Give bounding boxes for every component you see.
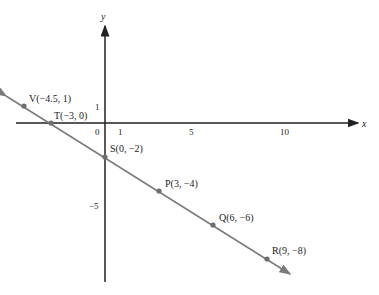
label-V: V(−4.5, 1)	[29, 93, 71, 105]
x-tick-1: 1	[118, 127, 123, 137]
label-P: P(3, −4)	[165, 178, 198, 190]
label-Q: Q(6, −6)	[219, 212, 254, 224]
y-tick-1: 1	[95, 102, 100, 112]
origin-label: 0	[95, 127, 100, 137]
x-tick-10: 10	[280, 127, 290, 137]
coordinate-plane: x y 0 1 5 10 1 −5 V(−4.5, 1) T(−3, 0) S(…	[0, 0, 379, 295]
x-axis-label: x	[361, 118, 367, 129]
point-S	[102, 154, 107, 159]
y-tick-minus5: −5	[89, 201, 99, 211]
point-R	[264, 256, 269, 261]
point-V	[21, 103, 26, 108]
point-P	[156, 188, 161, 193]
label-R: R(9, −8)	[272, 245, 306, 257]
label-S: S(0, −2)	[110, 143, 143, 155]
y-axis-label: y	[100, 11, 106, 22]
point-Q	[210, 222, 215, 227]
label-T: T(−3, 0)	[54, 110, 87, 122]
x-tick-5: 5	[189, 127, 194, 137]
point-T	[48, 120, 53, 125]
